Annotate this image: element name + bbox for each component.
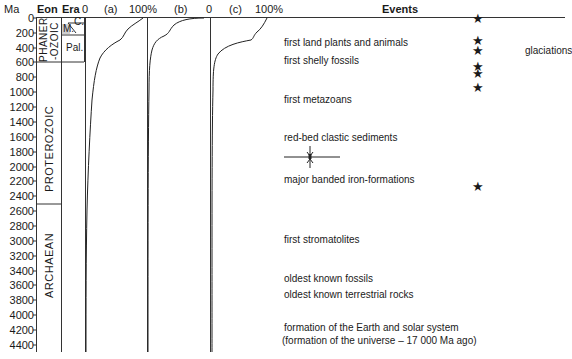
event-first-metazoans: first metazoans (284, 94, 352, 106)
era-label-palaeozoic: Pal. (66, 42, 83, 53)
era-label-cenozoic: C. (74, 16, 84, 27)
eon-label-archaean: ARCHAEAN (43, 233, 55, 298)
star-icon: ★ (472, 180, 484, 193)
curve-c (212, 18, 267, 352)
eon-label-phanerozoic-line1: PHANER (38, 17, 49, 62)
event-first-stromatolites: first stromatolites (284, 234, 360, 246)
event-formation-earth: formation of the Earth and solar system (284, 322, 459, 334)
event-first-land-plants: first land plants and animals (284, 37, 408, 49)
star-icon: ★ (472, 81, 484, 94)
era-label-mesozoic: M. (63, 23, 74, 34)
curve-b (148, 18, 204, 352)
star-icon: ★ (472, 44, 484, 57)
event-red-bed-sediments: red-bed clastic sediments (284, 132, 397, 144)
crossover-marker-icon (284, 146, 340, 168)
event-formation-universe: (formation of the universe – 17 000 Ma a… (282, 335, 477, 347)
event-banded-iron-formations: major banded iron-formations (284, 174, 415, 186)
event-first-shelly-fossils: first shelly fossils (284, 55, 359, 67)
star-icon: ★ (472, 12, 484, 25)
eon-label-proterozoic: PROTEROZOIC (43, 106, 55, 192)
star-icon: ★ (472, 67, 484, 80)
glaciations-label: glaciations (525, 45, 572, 56)
curve-a (86, 18, 143, 352)
eon-label-phanerozoic-line2: -OZOIC (49, 22, 60, 60)
event-oldest-fossils: oldest known fossils (284, 273, 373, 285)
event-oldest-terrestrial-rocks: oldest known terrestrial rocks (284, 289, 414, 301)
